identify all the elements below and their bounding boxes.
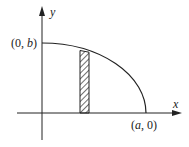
ellipse-area-diagram: y x (0, b) (a, 0)	[0, 0, 189, 147]
y-axis-label: y	[49, 5, 56, 19]
ellipse-curve	[42, 43, 146, 113]
x-intercept-label: (a, 0)	[131, 118, 157, 132]
y-axis-arrow-icon	[39, 6, 45, 16]
x-axis-label: x	[172, 97, 179, 111]
y-axis	[39, 6, 45, 140]
hatched-strip	[80, 51, 89, 114]
y-intercept-label: (0, b)	[11, 36, 37, 50]
